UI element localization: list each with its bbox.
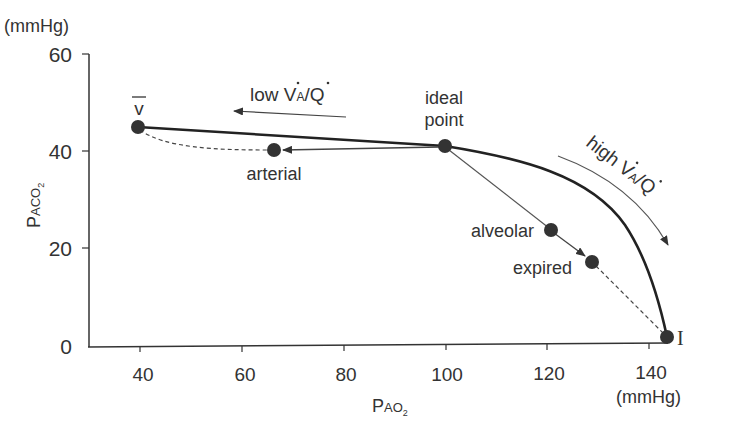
ideal-to-arterial-arrow bbox=[283, 147, 440, 150]
expired-to-inspired-dashed bbox=[596, 266, 664, 334]
low-va-q-arrow bbox=[234, 111, 346, 117]
x-axis-line bbox=[88, 343, 668, 347]
point-inspired bbox=[660, 330, 674, 344]
y-unit-label: (mmHg) bbox=[4, 16, 69, 36]
y-tick-60: 60 bbox=[49, 43, 72, 66]
label-expired: expired bbox=[513, 258, 572, 278]
y-axis-title: PACO2 bbox=[24, 183, 46, 228]
svg-text:PACO2: PACO2 bbox=[24, 183, 46, 228]
x-axis-title: PAO2 bbox=[372, 396, 408, 418]
svg-text:high VA/Q: high VA/Q bbox=[583, 132, 661, 199]
x-unit-label: (mmHg) bbox=[616, 387, 681, 407]
y-tick-20: 20 bbox=[49, 237, 72, 260]
y-tick-0: 0 bbox=[60, 335, 72, 358]
label-inspired: I bbox=[677, 327, 684, 349]
label-high-va-q: high VA/Q bbox=[583, 130, 663, 200]
svg-text:low VA/Q: low VA/Q bbox=[250, 84, 325, 105]
label-arterial: arterial bbox=[246, 164, 301, 184]
y-tick-40: 40 bbox=[49, 140, 72, 163]
point-alveolar bbox=[544, 223, 558, 237]
alveolar-to-expired-arrow bbox=[554, 233, 585, 256]
label-low-va-q: low VA/Q bbox=[250, 82, 329, 105]
x-tick-140: 140 bbox=[635, 362, 667, 383]
x-tick-120: 120 bbox=[533, 363, 565, 384]
svg-text:v: v bbox=[134, 98, 144, 119]
label-venous: v bbox=[132, 97, 146, 119]
ideal-to-alveolar-line bbox=[449, 150, 549, 228]
label-ideal-1: ideal bbox=[425, 88, 463, 108]
x-tick-100: 100 bbox=[431, 364, 463, 385]
x-tick-40: 40 bbox=[132, 364, 153, 385]
label-alveolar: alveolar bbox=[471, 221, 534, 241]
point-ideal bbox=[438, 139, 452, 153]
o2-co2-diagram: 60 40 20 0 40 60 80 100 120 140 (mmHg) (… bbox=[0, 0, 734, 431]
label-ideal-2: point bbox=[424, 110, 463, 130]
x-tick-60: 60 bbox=[234, 364, 255, 385]
x-tick-80: 80 bbox=[335, 364, 356, 385]
va-q-curve bbox=[138, 127, 667, 337]
axes bbox=[82, 54, 668, 352]
point-venous bbox=[131, 120, 145, 134]
point-arterial bbox=[267, 143, 281, 157]
point-expired bbox=[585, 255, 599, 269]
